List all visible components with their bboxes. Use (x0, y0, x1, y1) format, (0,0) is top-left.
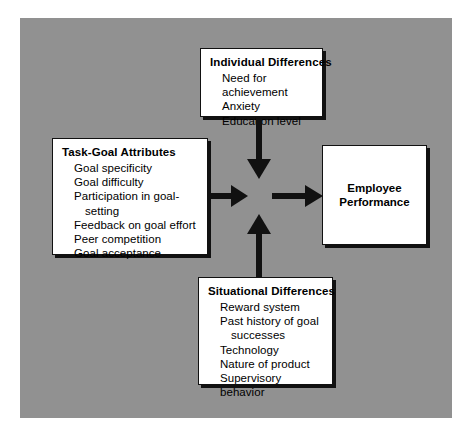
box-employee-performance-label: Employee Performance (339, 181, 409, 210)
list-item: Feedback on goal effort (74, 218, 199, 232)
diagram-canvas: Individual Differences Need for achievem… (0, 0, 472, 437)
list-item: Reward system (220, 300, 324, 314)
list-item: Participation in goal- (74, 189, 199, 203)
box-individual-differences-list: Need for achievement Anxiety Education l… (210, 71, 314, 128)
list-item: Supervisory behavior (220, 371, 324, 399)
box-task-goal-attributes-title: Task-Goal Attributes (62, 145, 199, 159)
box-individual-differences: Individual Differences Need for achievem… (200, 48, 323, 117)
list-item: Goal specificity (74, 161, 199, 175)
box-task-goal-attributes-list: Goal specificity Goal difficulty Partici… (62, 161, 199, 260)
list-item-continuation: setting (74, 204, 199, 218)
list-item: Nature of product (220, 357, 324, 371)
list-item-continuation: successes (220, 328, 324, 342)
list-item: Anxiety (222, 99, 314, 113)
list-item: Need for achievement (222, 71, 314, 99)
box-situational-differences-title: Situational Differences (208, 284, 324, 298)
box-situational-differences: Situational Differences Reward system Pa… (198, 277, 333, 385)
box-individual-differences-title: Individual Differences (210, 55, 314, 69)
list-item: Goal difficulty (74, 175, 199, 189)
box-task-goal-attributes: Task-Goal Attributes Goal specificity Go… (52, 138, 208, 255)
list-item: Education level (222, 114, 314, 128)
box-situational-differences-list: Reward system Past history of goal succe… (208, 300, 324, 399)
list-item: Past history of goal (220, 314, 324, 328)
list-item: Peer competition (74, 232, 199, 246)
box-employee-performance: Employee Performance (322, 145, 427, 245)
list-item: Goal acceptance (74, 246, 199, 260)
list-item: Technology (220, 343, 324, 357)
